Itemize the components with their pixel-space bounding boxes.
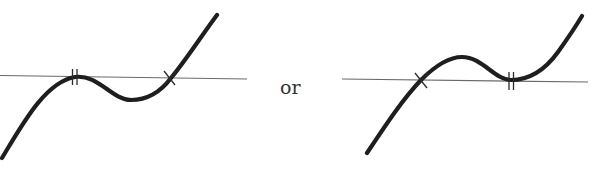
- left-cubic-curve: [2, 15, 217, 158]
- or-separator-label: or: [280, 76, 301, 98]
- right-x-axis: [342, 79, 588, 82]
- right-cubic-curve: [367, 16, 582, 153]
- left-graph: [0, 15, 247, 158]
- right-graph: [342, 16, 588, 153]
- left-x-axis: [0, 76, 247, 80]
